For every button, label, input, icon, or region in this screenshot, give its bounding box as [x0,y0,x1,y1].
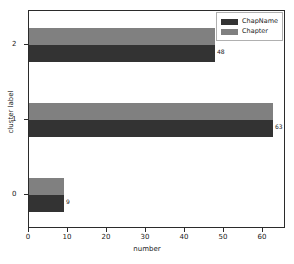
legend-swatch-icon-chapname [221,19,238,25]
x-tick-mark-40 [184,228,185,232]
legend-label-chapname: ChapName [242,18,278,25]
x-tick-label-0: 0 [26,234,30,241]
y-tick-label-2: 2 [12,41,16,48]
legend: ChapName Chapter [216,12,283,41]
x-tick-label-10: 10 [63,234,72,241]
legend-item-chapter: Chapter [221,27,278,36]
y-tick-label-1: 1 [12,116,16,123]
bar-chapname-cluster-2 [29,45,215,62]
x-tick-mark-50 [223,228,224,232]
x-tick-label-40: 40 [180,234,189,241]
bar-chapter-cluster-0 [29,178,64,195]
legend-label-chapter: Chapter [242,28,268,35]
x-tick-label-30: 30 [141,234,150,241]
bar-chapter-cluster-1 [29,103,273,120]
bar-chapter-cluster-2 [29,28,215,45]
bar-value-label-cluster-2: 48 [217,49,225,55]
y-axis-title: cluster label [7,62,15,162]
legend-item-chapname: ChapName [221,17,278,26]
bar-chapname-cluster-1 [29,120,273,137]
y-tick-label-0: 0 [12,191,16,198]
plot-area: 48 63 9 ChapName Chapter [28,10,285,228]
bar-value-label-cluster-0: 9 [66,199,70,205]
legend-swatch-icon-chapter [221,29,238,35]
bar-value-label-cluster-1: 63 [275,124,283,130]
x-tick-mark-30 [145,228,146,232]
bar-chapname-cluster-0 [29,195,64,212]
x-tick-mark-10 [67,228,68,232]
chart-figure: cluster label 2 1 0 0 10 20 30 40 50 60 … [0,0,294,264]
x-tick-mark-0 [28,228,29,232]
x-tick-label-60: 60 [258,234,267,241]
x-tick-label-20: 20 [102,234,111,241]
x-tick-mark-20 [106,228,107,232]
x-tick-label-50: 50 [219,234,228,241]
x-axis-title: number [0,245,294,253]
x-tick-mark-60 [262,228,263,232]
